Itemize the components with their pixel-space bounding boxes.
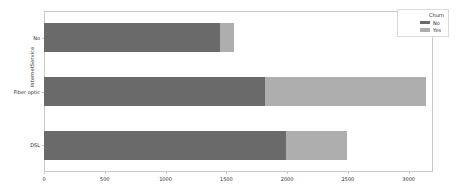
- x-tick-mark: [44, 172, 45, 174]
- x-tick-label-500: 500: [90, 176, 120, 182]
- x-tick-mark: [105, 172, 106, 174]
- legend: Churn NoYes: [397, 9, 449, 37]
- legend-item-yes[interactable]: Yes: [401, 27, 445, 33]
- stacked-bar-chart: InternetService NoFiber opticDSL 0500100…: [0, 0, 456, 193]
- x-tick-mark: [409, 172, 410, 174]
- x-tick-label-2500: 2500: [333, 176, 363, 182]
- x-tick-label-1000: 1000: [151, 176, 181, 182]
- x-tick-label-3000: 3000: [394, 176, 424, 182]
- x-tick-mark: [287, 172, 288, 174]
- x-tick-mark: [166, 172, 167, 174]
- legend-title: Churn: [401, 12, 445, 18]
- x-axis-ticks: 050010001500200025003000: [0, 0, 456, 193]
- x-tick-label-2000: 2000: [272, 176, 302, 182]
- legend-item-no[interactable]: No: [401, 20, 445, 26]
- x-tick-mark: [348, 172, 349, 174]
- legend-label: Yes: [433, 27, 445, 33]
- x-tick-mark: [226, 172, 227, 174]
- legend-label: No: [433, 20, 445, 26]
- x-tick-label-1500: 1500: [211, 176, 241, 182]
- legend-swatch-icon: [420, 21, 430, 25]
- legend-swatch-icon: [420, 28, 430, 32]
- x-tick-label-0: 0: [29, 176, 59, 182]
